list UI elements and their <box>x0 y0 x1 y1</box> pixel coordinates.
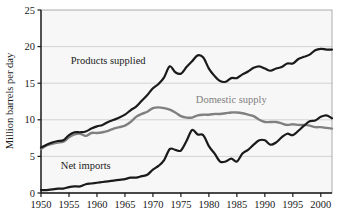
x-tick-label: 1965 <box>114 199 135 210</box>
y-tick-label: 0 <box>30 188 35 199</box>
series-label-domestic-supply: Domestic supply <box>196 94 268 105</box>
x-tick-label: 1970 <box>142 199 163 210</box>
x-tick-label: 1950 <box>31 199 52 210</box>
y-axis-tick-labels: 0510152025 <box>25 5 36 199</box>
y-axis-title: Million barrels per day <box>4 52 15 149</box>
x-tick-label: 1995 <box>282 199 303 210</box>
x-tick-label: 1985 <box>226 199 247 210</box>
chart-figure: 0510152025 19501955196019651970197519801… <box>0 0 343 224</box>
y-tick-label: 25 <box>25 5 36 16</box>
x-tick-label: 2000 <box>310 199 331 210</box>
series-label-net-imports: Net imports <box>61 160 111 171</box>
y-tick-label: 15 <box>25 78 36 89</box>
x-tick-label: 1975 <box>170 199 191 210</box>
y-tick-label: 10 <box>25 114 36 125</box>
y-tick-label: 20 <box>25 41 36 52</box>
x-tick-label: 1990 <box>254 199 275 210</box>
series-label-products-supplied: Products supplied <box>71 55 147 66</box>
x-tick-label: 1980 <box>198 199 219 210</box>
x-tick-label: 1955 <box>58 199 79 210</box>
line-chart: 0510152025 19501955196019651970197519801… <box>0 0 343 224</box>
y-tick-label: 5 <box>30 151 35 162</box>
x-axis-tick-labels: 1950195519601965197019751980198519901995… <box>31 199 332 210</box>
x-tick-label: 1960 <box>86 199 107 210</box>
